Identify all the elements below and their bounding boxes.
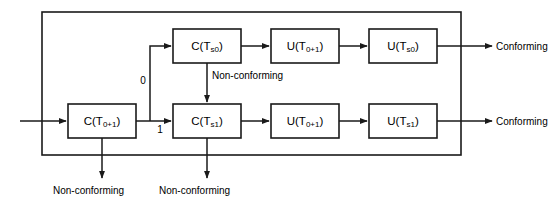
label-nonconforming-left: Non-conforming: [53, 185, 124, 196]
process-box-u-ts1[interactable]: U(Ts1): [369, 104, 437, 138]
label-conforming-bottom: Conforming: [496, 116, 548, 127]
process-box-c-ts1[interactable]: C(Ts1): [173, 104, 241, 138]
branch-label-one: 1: [157, 124, 163, 135]
branch-label-zero: 0: [140, 75, 146, 86]
process-box-u-ts0[interactable]: U(Ts0): [369, 29, 437, 63]
process-box-c-ts0[interactable]: C(Ts0): [173, 29, 241, 63]
process-box-u-t01-bottom[interactable]: U(T0+1): [271, 104, 339, 138]
process-box-c-ts0-label: C(Ts0): [191, 40, 223, 54]
process-box-u-t01-top[interactable]: U(T0+1): [271, 29, 339, 63]
label-conforming-top: Conforming: [496, 41, 548, 52]
process-box-u-ts0-label: U(Ts0): [387, 40, 419, 54]
process-box-u-ts1-label: U(Ts1): [387, 115, 419, 129]
flow-diagram-svg: C(T0+1) C(Ts0) C(Ts1) U(T0+1) U(Ts0) U(T…: [0, 0, 548, 208]
connector-branch-zero-to-c-ts0: [150, 46, 171, 121]
label-nonconforming-mid: Non-conforming: [212, 70, 283, 81]
process-box-c-t01[interactable]: C(T0+1): [68, 104, 136, 138]
label-nonconforming-center: Non-conforming: [159, 185, 230, 196]
process-box-c-ts1-label: C(Ts1): [191, 115, 223, 129]
flow-diagram-canvas: C(T0+1) C(Ts0) C(Ts1) U(T0+1) U(Ts0) U(T…: [0, 0, 548, 208]
